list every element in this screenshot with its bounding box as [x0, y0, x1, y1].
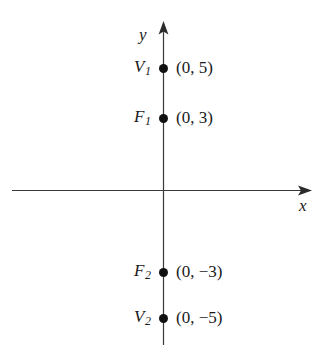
y-axis-label: y [139, 26, 147, 43]
coordinate-diagram: y x V1 (0, 5) F1 (0, 3) F2 (0, −3) V2 (0… [0, 0, 319, 358]
point-label-subscript: 2 [145, 268, 152, 282]
axes-group [0, 0, 319, 358]
point-label-subscript: 2 [145, 314, 152, 328]
point-label-v2: V2 [134, 307, 151, 329]
point-dot-f1 [159, 114, 168, 123]
point-coordinate-v1: (0, 5) [176, 58, 213, 78]
point-label-v1: V1 [134, 57, 151, 79]
point-coordinate-f1: (0, 3) [176, 108, 213, 128]
point-coordinate-v2: (0, −5) [176, 308, 222, 328]
x-axis-label: x [299, 197, 307, 214]
point-label-subscript: 1 [145, 114, 152, 128]
point-dot-v1 [159, 64, 168, 73]
point-dot-f2 [159, 268, 168, 277]
point-label-f2: F2 [134, 261, 151, 283]
point-label-f1: F1 [134, 107, 151, 129]
point-dot-v2 [159, 314, 168, 323]
point-coordinate-f2: (0, −3) [176, 262, 222, 282]
point-label-subscript: 1 [145, 64, 152, 78]
